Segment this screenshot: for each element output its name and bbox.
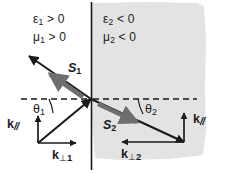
theta-1-symbol: θ xyxy=(33,102,40,116)
medium-1-mu-relation: > 0 xyxy=(49,30,67,44)
theta-1-angle-arc xyxy=(49,99,53,113)
k-perp-1-index: 1 xyxy=(67,152,72,163)
poynting-2-subscript: 2 xyxy=(111,123,116,133)
k-perp-2-symbol: k xyxy=(121,147,128,161)
k-perp-2-perp-symbol: ⊥ xyxy=(128,152,136,162)
k-perp-2-index: 2 xyxy=(136,151,141,162)
poynting-vector-1-arrow xyxy=(50,74,83,97)
k-perp-1-symbol: k xyxy=(52,148,59,162)
medium-1-mu-subscript: 1 xyxy=(40,35,45,45)
physics-refraction-figure: ε1 > 0 μ1 > 0 ε2 < 0 μ2 < 0 S1 S2 θ1 θ2 … xyxy=(0,0,228,173)
theta-1-label: θ1 xyxy=(33,103,45,117)
theta-1-subscript: 1 xyxy=(40,107,45,117)
medium-1-epsilon-subscript: 1 xyxy=(39,17,44,27)
medium-1-mu-label: μ1 > 0 xyxy=(33,31,66,44)
k-perp-1-perp-symbol: ⊥ xyxy=(59,153,67,163)
theta-2-symbol: θ xyxy=(145,102,152,116)
medium1-upper-ray xyxy=(29,56,91,99)
k-parallel-1-label: k// xyxy=(7,118,19,132)
k-parallel-1-slash: // xyxy=(14,120,19,132)
medium-2-mu-subscript: 2 xyxy=(110,35,115,45)
theta-2-label: θ2 xyxy=(145,103,157,117)
k-parallel-2-slash: // xyxy=(200,115,205,127)
medium-2-epsilon-label: ε2 < 0 xyxy=(103,13,135,26)
k-parallel-2-symbol: k xyxy=(193,112,200,126)
medium-2-epsilon-relation: < 0 xyxy=(117,12,135,26)
medium-2-mu-relation: < 0 xyxy=(119,30,137,44)
theta-2-subscript: 2 xyxy=(152,107,157,117)
poynting-vector-2-label: S2 xyxy=(103,119,116,133)
k-perp-1-label: k⊥1 xyxy=(52,149,72,163)
medium-2-mu-label: μ2 < 0 xyxy=(103,31,136,44)
incident-wavevector-ray xyxy=(38,99,91,143)
medium-1-epsilon-label: ε1 > 0 xyxy=(33,13,65,26)
medium-2-epsilon-subscript: 2 xyxy=(109,17,114,27)
poynting-vector-1-label: S1 xyxy=(68,62,81,76)
k-parallel-1-symbol: k xyxy=(7,117,14,131)
poynting-1-subscript: 1 xyxy=(76,66,81,76)
medium-1-epsilon-relation: > 0 xyxy=(47,12,65,26)
k-parallel-2-label: k// xyxy=(193,113,205,127)
k-perp-2-label: k⊥2 xyxy=(121,148,141,162)
